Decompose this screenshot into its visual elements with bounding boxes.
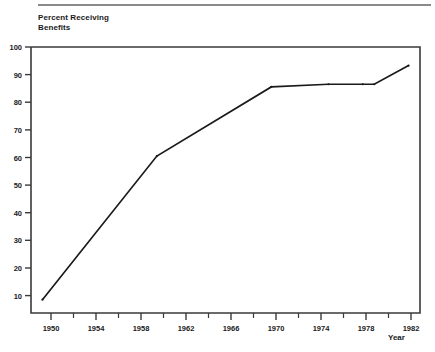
y-tick-label: 10 (14, 292, 22, 301)
axis-lines (31, 47, 420, 313)
y-tick-label: 40 (14, 209, 22, 218)
data-series-line (42, 66, 408, 300)
data-point (373, 83, 375, 85)
data-point (362, 83, 364, 85)
x-tick-label: 1950 (43, 324, 60, 333)
data-series-markers (41, 65, 409, 301)
axes-group: 100 90 80 70 60 50 40 30 20 10 (9, 43, 420, 333)
x-tick-label: 1978 (358, 324, 375, 333)
data-point (407, 65, 409, 67)
x-tick-label: 1974 (313, 324, 331, 333)
y-axis-tick-labels: 100 90 80 70 60 50 40 30 20 10 (9, 43, 22, 301)
data-point (270, 86, 272, 88)
x-axis-ticks (51, 313, 411, 320)
data-point (156, 155, 158, 157)
y-tick-label: 80 (14, 98, 22, 107)
y-axis-ticks (25, 47, 31, 296)
x-tick-label: 1958 (133, 324, 150, 333)
y-tick-label: 100 (9, 43, 22, 52)
y-tick-label: 60 (14, 154, 22, 163)
y-tick-label: 20 (14, 264, 22, 273)
x-axis-title: Year (388, 333, 405, 342)
y-tick-label: 50 (14, 181, 22, 190)
x-axis-tick-labels: 1950 1954 1958 1962 1966 1970 1974 1978 … (43, 324, 420, 333)
x-tick-label: 1970 (268, 324, 285, 333)
x-tick-label: 1954 (88, 324, 106, 333)
x-tick-label: 1982 (403, 324, 420, 333)
line-chart-plot: 100 90 80 70 60 50 40 30 20 10 (0, 0, 435, 352)
x-tick-label: 1966 (223, 324, 240, 333)
data-point (41, 299, 43, 301)
y-tick-label: 90 (14, 71, 22, 80)
y-tick-label: 30 (14, 236, 22, 245)
x-tick-label: 1962 (178, 324, 195, 333)
chart-figure: Percent Receiving Benefits 100 90 (0, 0, 435, 352)
data-point (327, 83, 329, 85)
y-tick-label: 70 (14, 126, 22, 135)
